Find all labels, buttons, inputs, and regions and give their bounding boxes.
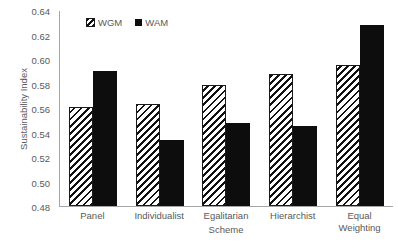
bars-layer <box>60 11 393 206</box>
bar-group <box>60 11 127 206</box>
plot-area <box>59 11 393 207</box>
bar-wam[interactable] <box>93 71 117 206</box>
y-axis-tick-label: 0.52 <box>32 153 51 164</box>
y-axis-tick-label: 0.48 <box>32 202 51 213</box>
bar-group <box>193 11 260 206</box>
bar-wam[interactable] <box>360 25 384 206</box>
bar-wgm[interactable] <box>269 74 293 206</box>
bar-group <box>127 11 194 206</box>
bar-group <box>326 11 393 206</box>
bar-wgm[interactable] <box>69 107 93 206</box>
x-axis-title: Scheme <box>59 224 393 235</box>
bar-chart: Sustainability Index 0.640.620.600.580.5… <box>0 0 398 249</box>
bar-wam[interactable] <box>293 126 317 206</box>
y-axis-tick-label: 0.60 <box>32 55 51 66</box>
bar-wgm[interactable] <box>202 85 226 206</box>
bar-wam[interactable] <box>160 140 184 206</box>
bar-wam[interactable] <box>226 123 250 206</box>
y-axis-tick-label: 0.54 <box>32 128 51 139</box>
y-axis-tick-label: 0.50 <box>32 177 51 188</box>
bar-wgm[interactable] <box>136 104 160 206</box>
y-axis-tick-label: 0.64 <box>32 6 51 17</box>
y-axis-tick-label: 0.62 <box>32 30 51 41</box>
y-axis-ticks: 0.640.620.600.580.560.540.520.500.48 <box>0 11 55 207</box>
y-axis-tick-label: 0.58 <box>32 79 51 90</box>
bar-wgm[interactable] <box>336 65 360 206</box>
bar-group <box>260 11 327 206</box>
y-axis-tick-label: 0.56 <box>32 104 51 115</box>
